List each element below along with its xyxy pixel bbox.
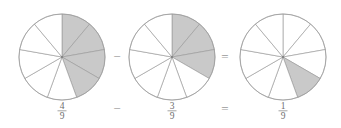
- fraction-numerator: 3: [170, 101, 175, 111]
- circle-center-dot: [61, 56, 63, 58]
- operator-minus-between-circles: −: [113, 49, 120, 64]
- pie-circles-layer: [19, 14, 326, 100]
- operator-equals-between-circles: =: [221, 49, 228, 64]
- fraction-labels-layer: 493919: [58, 101, 288, 121]
- fraction-subtraction-diagram: −=−= 493919: [0, 0, 341, 128]
- pie-circle-difference: [240, 14, 326, 100]
- fraction-numerator: 4: [60, 101, 65, 111]
- fraction-denominator: 9: [170, 111, 175, 121]
- operator-equals-between-fractions: =: [221, 101, 228, 116]
- fraction-label-minuend: 49: [58, 101, 67, 121]
- fraction-diagram-canvas: −=−= 493919: [0, 0, 341, 128]
- circle-center-dot: [282, 56, 284, 58]
- circle-center-dot: [171, 56, 173, 58]
- fraction-denominator: 9: [60, 111, 65, 121]
- fraction-denominator: 9: [281, 111, 286, 121]
- fraction-label-difference: 19: [279, 101, 288, 121]
- fraction-numerator: 1: [281, 101, 286, 111]
- operator-minus-between-fractions: −: [113, 101, 120, 116]
- pie-circle-subtrahend: [129, 14, 215, 100]
- fraction-label-subtrahend: 39: [168, 101, 177, 121]
- pie-circle-minuend: [19, 14, 105, 100]
